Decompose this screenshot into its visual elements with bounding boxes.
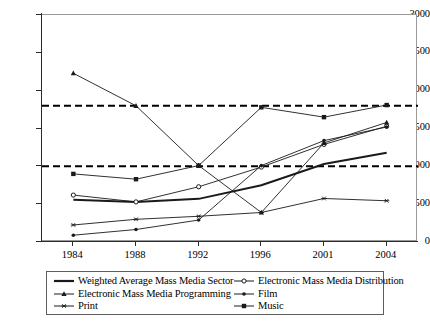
plot-area (41, 14, 417, 241)
legend-marker-none-icon (53, 275, 75, 287)
data-point-asterisk (321, 197, 326, 201)
data-point-square (196, 163, 200, 167)
data-point-dot (197, 218, 201, 222)
data-point-square (259, 105, 263, 109)
data-point-square (71, 172, 75, 176)
legend-label: Print (78, 300, 98, 312)
legend-label: Electronic Mass Media Distribution (258, 275, 404, 287)
x-tick-mark (135, 241, 136, 246)
legend-item-music[interactable]: Music (233, 300, 383, 313)
x-tick-label: 2004 (356, 249, 416, 260)
data-point-triangle (71, 70, 76, 75)
data-point-circle (71, 193, 75, 197)
legend-label: Film (258, 288, 277, 300)
series-3 (72, 125, 389, 237)
chart-figure: 050010001500200025003000 198419881992199… (0, 0, 430, 324)
legend-item-electronic-mass-media-programming[interactable]: Electronic Mass Media Programming (53, 288, 231, 301)
legend-marker-dot-icon (233, 288, 255, 300)
x-tick-label: 1984 (42, 249, 102, 260)
x-tick-label: 1996 (230, 249, 290, 260)
data-point-asterisk (61, 305, 66, 309)
x-tick-label: 2001 (293, 249, 353, 260)
x-tick-mark (72, 241, 73, 246)
data-point-asterisk (71, 223, 76, 227)
data-point-dot (134, 228, 138, 232)
legend-marker-asterisk-icon (53, 300, 75, 312)
legend-item-electronic-mass-media-distribution[interactable]: Electronic Mass Media Distribution (233, 275, 383, 288)
data-point-dot (72, 233, 76, 237)
x-axis-line (41, 241, 418, 242)
legend-item-weighted-average-mass-media-sector[interactable]: Weighted Average Mass Media Sector (53, 275, 231, 288)
chart-legend: Weighted Average Mass Media SectorElectr… (46, 271, 384, 315)
series-5 (71, 103, 389, 182)
legend-label: Electronic Mass Media Programming (78, 288, 231, 300)
data-point-asterisk (133, 217, 138, 221)
legend-item-film[interactable]: Film (233, 288, 383, 301)
data-point-dot (385, 125, 389, 129)
data-point-asterisk (384, 199, 389, 203)
x-tick-mark (386, 241, 387, 246)
data-point-dot (322, 139, 326, 143)
data-point-square (134, 177, 138, 181)
legend-column-right: Electronic Mass Media DistributionFilmMu… (233, 275, 383, 313)
legend-marker-triangle-icon (53, 288, 75, 300)
legend-label: Music (258, 300, 284, 312)
legend-column-left: Weighted Average Mass Media SectorElectr… (53, 275, 231, 313)
data-point-dot (260, 164, 264, 168)
data-point-square (384, 103, 388, 107)
data-point-square (242, 304, 246, 308)
data-point-circle (242, 279, 246, 283)
x-tick-mark (198, 241, 199, 246)
x-tick-label: 1992 (168, 249, 228, 260)
plot-canvas (42, 15, 418, 242)
x-tick-label: 1988 (105, 249, 165, 260)
data-point-asterisk (196, 214, 201, 218)
series-line (73, 198, 386, 224)
series-line (73, 127, 386, 235)
data-point-square (322, 115, 326, 119)
x-tick-mark (323, 241, 324, 246)
data-point-dot (242, 292, 246, 296)
legend-marker-square-icon (233, 300, 255, 312)
data-point-circle (134, 200, 138, 204)
data-point-circle (197, 185, 201, 189)
x-tick-mark (260, 241, 261, 246)
legend-label: Weighted Average Mass Media Sector (78, 275, 233, 287)
legend-item-print[interactable]: Print (53, 300, 231, 313)
data-point-triangle (384, 120, 389, 125)
y-axis-line (41, 13, 42, 242)
legend-marker-circle-icon (233, 275, 255, 287)
series-line (73, 105, 386, 179)
